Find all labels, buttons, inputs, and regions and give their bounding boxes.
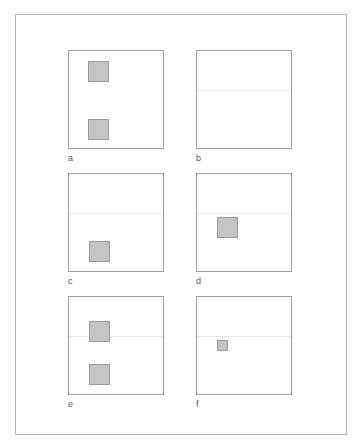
divider-line — [69, 213, 163, 214]
gray-square — [89, 364, 110, 385]
panel-f — [196, 296, 292, 395]
panel-e — [68, 296, 164, 395]
panel-label-e: e — [68, 399, 73, 409]
panel-d — [196, 173, 292, 272]
panel-label-d: d — [196, 276, 201, 286]
panel-label-c: c — [68, 276, 73, 286]
panel-a — [68, 50, 164, 149]
gray-square — [88, 61, 109, 82]
gray-square — [89, 241, 110, 262]
figure-frame — [15, 14, 347, 435]
divider-line — [197, 213, 291, 214]
divider-line — [197, 336, 291, 337]
gray-square — [217, 217, 238, 238]
panel-c — [68, 173, 164, 272]
panel-label-b: b — [196, 153, 201, 163]
gray-square — [217, 340, 228, 351]
gray-square — [88, 119, 109, 140]
panel-b — [196, 50, 292, 149]
gray-square — [89, 321, 110, 342]
divider-line — [69, 336, 163, 337]
panel-label-a: a — [68, 153, 73, 163]
divider-line — [197, 90, 291, 91]
panel-label-f: f — [196, 399, 199, 409]
